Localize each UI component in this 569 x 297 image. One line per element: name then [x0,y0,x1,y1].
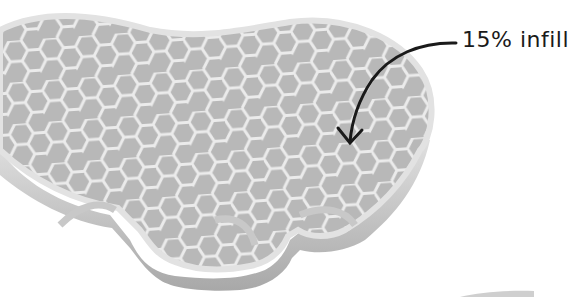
second-part-edge [460,291,534,297]
infill-annotation-label: 15% infill [462,27,569,52]
